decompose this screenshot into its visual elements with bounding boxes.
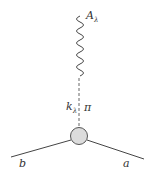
label-a-lambda: Aλ xyxy=(86,10,98,24)
right-fermion-line xyxy=(87,140,144,159)
photon-wavy-line xyxy=(77,16,84,76)
label-b: b xyxy=(19,158,26,169)
vertex-blob xyxy=(71,128,88,145)
label-k-lambda: kλ xyxy=(66,101,77,115)
label-pi: π xyxy=(84,102,91,113)
label-a: a xyxy=(123,158,130,169)
left-fermion-line xyxy=(11,140,71,157)
feynman-diagram xyxy=(0,0,151,177)
